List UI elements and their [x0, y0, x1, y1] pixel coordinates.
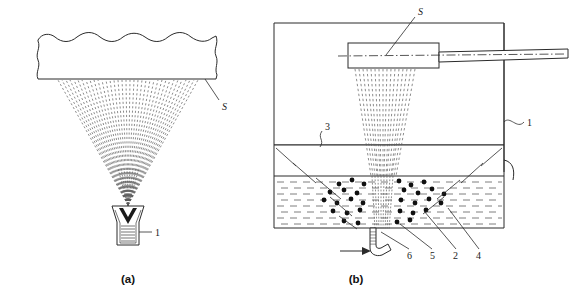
- label-a-nozzle: 1: [155, 227, 160, 238]
- figure-canvas: S 1 (a): [0, 0, 569, 299]
- caption-panel-b: (b): [349, 273, 364, 285]
- tank-lower-chamber: [274, 145, 504, 228]
- label-b-wall: 1: [527, 117, 532, 128]
- patent-figure: S 1 (a): [0, 0, 569, 299]
- nozzle-body: [112, 206, 144, 245]
- label-b-stream: 5: [430, 250, 435, 261]
- label-b-divider: 3: [325, 121, 330, 132]
- label-b-liquid: 4: [476, 250, 481, 261]
- label-b-inlet: 6: [407, 250, 412, 261]
- label-b-spraybar: S: [418, 6, 423, 17]
- label-b-particles: 2: [453, 250, 458, 261]
- label-a-substrate: S: [222, 101, 227, 112]
- caption-panel-a: (a): [121, 273, 135, 285]
- tank-upper-chamber: [274, 23, 504, 145]
